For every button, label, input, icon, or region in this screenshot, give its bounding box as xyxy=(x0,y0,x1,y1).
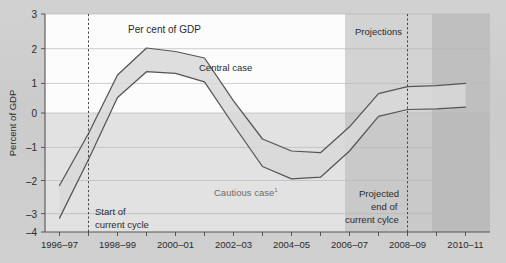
y-tick-label-2: 2 xyxy=(31,44,37,55)
annotation-central-case: Central case xyxy=(199,62,252,73)
x-tick-label-2002-03: 2002–03 xyxy=(215,239,252,250)
x-tick-label-2010-11: 2010–11 xyxy=(447,239,483,250)
x-tick-label-2008-09: 2008–09 xyxy=(389,239,426,250)
y-tick-label-0: 0 xyxy=(31,108,37,119)
x-tick-label-2004-05: 2004–05 xyxy=(273,239,310,250)
annotation-start-of-cycle-line1: Start of xyxy=(95,206,126,217)
y-tick-label-neg3: –3 xyxy=(26,209,38,220)
y-tick-label-3: 3 xyxy=(31,9,37,20)
projections-shading-late xyxy=(432,14,490,232)
annotation-projections: Projections xyxy=(355,26,402,37)
y-axis-title: Percent of GDP xyxy=(7,90,18,157)
x-tick-label-2006-07: 2006–07 xyxy=(331,239,368,250)
x-axis-ticks xyxy=(60,232,466,236)
chart-svg: 3 2 1 0 –1 –2 –3 –4 Percent of GDP 1996–… xyxy=(0,0,506,263)
chart-figure: 3 2 1 0 –1 –2 –3 –4 Percent of GDP 1996–… xyxy=(0,0,506,263)
annotation-projected-end-line2: end of xyxy=(371,201,398,212)
annotation-start-of-cycle-line2: current cycle xyxy=(95,219,149,230)
y-tick-label-1: 1 xyxy=(31,78,37,89)
annotation-projected-end-line1: Projected xyxy=(359,188,399,199)
y-axis-ticks xyxy=(41,14,45,232)
y-tick-label-neg4: –4 xyxy=(26,227,38,238)
x-tick-label-2000-01: 2000–01 xyxy=(157,239,194,250)
annotation-cautious-case: Cautious case1 xyxy=(214,187,278,198)
chart-title: Per cent of GDP xyxy=(128,24,201,35)
x-tick-label-1998-99: 1998–99 xyxy=(99,239,136,250)
annotation-cautious-case-text: Cautious case xyxy=(214,187,274,198)
annotation-projected-end-line3: current cylce xyxy=(345,214,399,225)
y-tick-label-neg2: –2 xyxy=(26,176,38,187)
y-tick-label-neg1: –1 xyxy=(26,142,38,153)
x-tick-label-1996-97: 1996–97 xyxy=(41,239,78,250)
